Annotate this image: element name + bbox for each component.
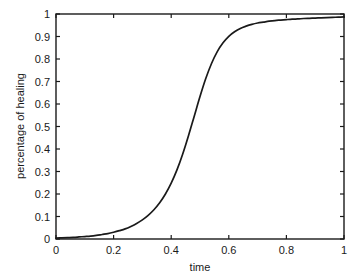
- y-tick-label: 0.7: [35, 76, 50, 88]
- x-tick-label: 0.8: [279, 244, 294, 256]
- x-tick-label: 0: [53, 244, 59, 256]
- plot-area-background: [56, 14, 344, 239]
- x-axis-title: time: [190, 261, 211, 273]
- chart-canvas: 00.20.40.60.81 00.10.20.30.40.50.60.70.8…: [0, 0, 358, 279]
- y-tick-label: 0.3: [35, 166, 50, 178]
- x-tick-label: 0.2: [106, 244, 121, 256]
- y-tick-label: 0.6: [35, 98, 50, 110]
- x-axis-tick-labels: 00.20.40.60.81: [53, 244, 347, 256]
- figure-container: 00.20.40.60.81 00.10.20.30.40.50.60.70.8…: [0, 0, 358, 279]
- y-tick-label: 0: [44, 233, 50, 245]
- y-tick-label: 0.9: [35, 31, 50, 43]
- y-axis-title: percentage of healing: [14, 73, 26, 179]
- y-tick-label: 0.5: [35, 121, 50, 133]
- y-tick-label: 1: [44, 8, 50, 20]
- y-tick-label: 0.4: [35, 143, 50, 155]
- x-tick-label: 1: [341, 244, 347, 256]
- y-tick-label: 0.8: [35, 53, 50, 65]
- x-tick-label: 0.4: [164, 244, 179, 256]
- x-tick-label: 0.6: [221, 244, 236, 256]
- y-tick-label: 0.2: [35, 188, 50, 200]
- y-axis-tick-labels: 00.10.20.30.40.50.60.70.80.91: [35, 8, 50, 245]
- y-tick-label: 0.1: [35, 211, 50, 223]
